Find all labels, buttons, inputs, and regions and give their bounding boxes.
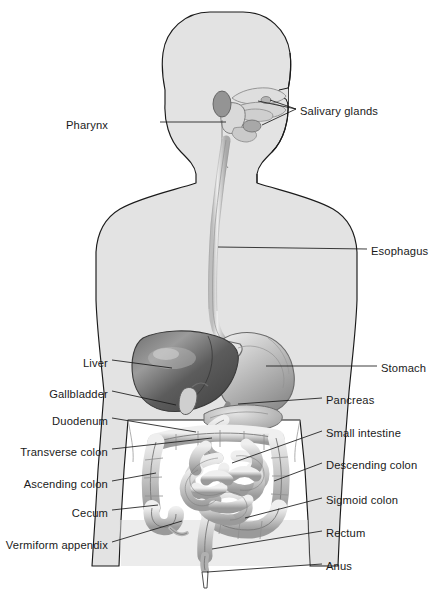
label-pancreas: Pancreas xyxy=(326,394,374,406)
label-liver: Liver xyxy=(83,357,108,369)
label-duodenum: Duodenum xyxy=(52,415,108,427)
label-esophagus: Esophagus xyxy=(371,245,428,257)
label-sigmoid-colon: Sigmoid colon xyxy=(326,494,398,506)
label-small-intestine: Small intestine xyxy=(326,427,401,439)
label-descending-colon: Descending colon xyxy=(326,459,417,471)
label-rectum: Rectum xyxy=(326,527,365,539)
label-cecum: Cecum xyxy=(72,507,108,519)
label-vermiform-appendix: Vermiform appendix xyxy=(6,539,108,551)
anatomy-illustration xyxy=(0,0,432,597)
label-ascending-colon: Ascending colon xyxy=(24,478,108,490)
label-transverse-colon: Transverse colon xyxy=(20,446,108,458)
label-salivary-glands: Salivary glands xyxy=(300,105,378,117)
label-stomach: Stomach xyxy=(381,362,426,374)
label-gallbladder: Gallbladder xyxy=(49,388,108,400)
label-pharynx: Pharynx xyxy=(66,119,108,131)
digestive-system-diagram: Pharynx Liver Gallbladder Duodenum Trans… xyxy=(0,0,432,597)
label-anus: Anus xyxy=(326,560,352,572)
